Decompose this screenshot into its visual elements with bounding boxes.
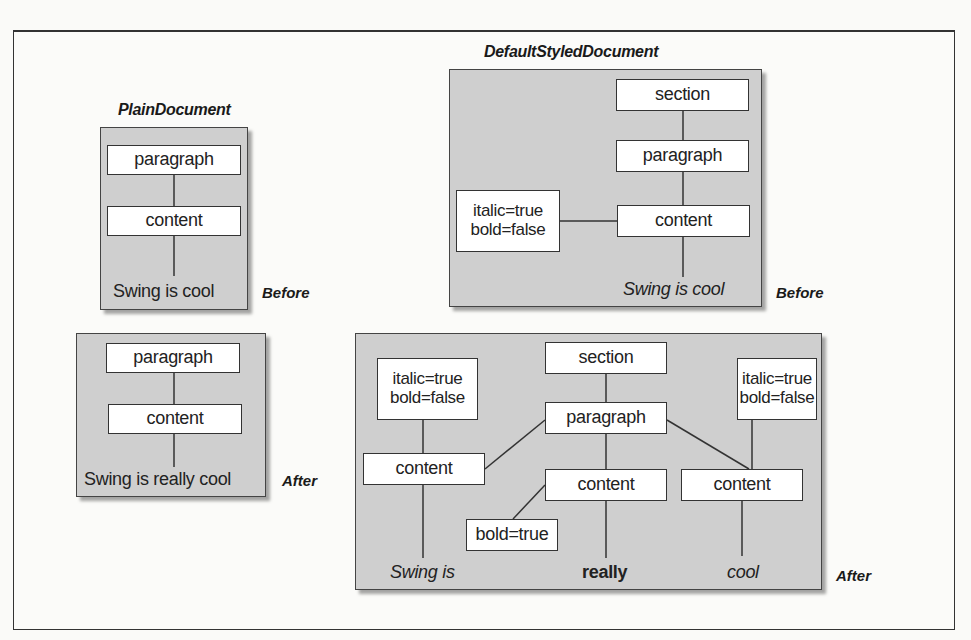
attribute-bold: bold=false	[471, 221, 546, 240]
plain-before-label: Before	[262, 284, 310, 301]
plain-after-content-node: content	[108, 404, 242, 434]
styled-before-content-node: content	[617, 205, 750, 237]
attribute-bold: bold=false	[390, 389, 465, 408]
styled-after-content1-attributes-node: italic=true bold=false	[377, 358, 478, 420]
plain-after-label: After	[282, 472, 317, 489]
styled-after-text-1: Swing is	[390, 562, 455, 583]
styled-before-attributes-node: italic=true bold=false	[456, 190, 560, 252]
styled-after-content3-attributes-node: italic=true bold=false	[737, 358, 817, 420]
styled-after-label: After	[836, 567, 871, 584]
styled-before-text: Swing is cool	[623, 279, 724, 300]
plain-after-paragraph-node: paragraph	[106, 343, 240, 373]
attribute-italic: italic=true	[742, 370, 812, 389]
styled-before-section-node: section	[616, 79, 749, 111]
styled-before-label: Before	[776, 284, 824, 301]
styled-after-content2-attributes-node: bold=true	[466, 519, 558, 551]
attribute-italic: italic=true	[473, 202, 543, 221]
styled-after-text-2: really	[582, 562, 627, 583]
plain-before-content-node: content	[107, 206, 241, 236]
styled-after-paragraph-node: paragraph	[545, 402, 667, 434]
styled-after-section-node: section	[545, 342, 667, 374]
plain-before-paragraph-node: paragraph	[107, 145, 241, 175]
plain-before-text: Swing is cool	[113, 281, 214, 302]
styled-after-text-3: cool	[727, 562, 759, 583]
styled-after-content2-node: content	[545, 469, 667, 501]
styled-after-content1-node: content	[363, 453, 485, 485]
attribute-bold: bold=false	[740, 389, 815, 408]
default-styled-document-title: DefaultStyledDocument	[484, 43, 658, 61]
plain-after-text: Swing is really cool	[84, 469, 231, 490]
styled-before-paragraph-node: paragraph	[616, 140, 749, 172]
plain-document-title: PlainDocument	[118, 101, 231, 119]
styled-after-content3-node: content	[681, 469, 803, 501]
attribute-italic: italic=true	[393, 370, 463, 389]
